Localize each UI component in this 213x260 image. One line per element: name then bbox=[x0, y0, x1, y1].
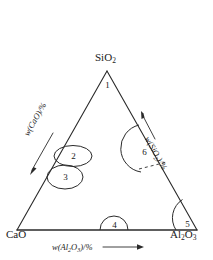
axis-label-al2o3: w(Al2O3)/% bbox=[52, 243, 92, 252]
axis-arrow-al2o3 bbox=[103, 244, 144, 250]
ternary-diagram: SiO2 CaO Al2O3 w(CaO)/% w(SiO2)/% w(Al2O… bbox=[0, 0, 213, 260]
region-number-3: 3 bbox=[61, 173, 70, 182]
vertex-label-al2o3-text: Al2O3 bbox=[170, 228, 196, 240]
vertex-label-sio2-text: SiO2 bbox=[95, 51, 116, 63]
region-number-5: 5 bbox=[183, 220, 192, 229]
region-number-6: 6 bbox=[140, 148, 149, 157]
triangle-edge-left bbox=[17, 71, 107, 230]
region-arc-6 bbox=[121, 125, 141, 172]
axis-label-al2o3-text: w(Al2O3)/% bbox=[52, 242, 92, 252]
vertex-label-sio2: SiO2 bbox=[95, 52, 116, 63]
vertex-label-al2o3: Al2O3 bbox=[170, 229, 196, 240]
region-arc-5 bbox=[172, 200, 182, 231]
axis-arrow-cao bbox=[30, 133, 53, 175]
vertex-label-cao-text: CaO bbox=[6, 228, 26, 240]
region-number-4: 4 bbox=[110, 221, 119, 230]
region-number-2: 2 bbox=[69, 152, 78, 161]
vertex-label-cao: CaO bbox=[6, 229, 26, 240]
region-number-1: 1 bbox=[103, 81, 112, 90]
